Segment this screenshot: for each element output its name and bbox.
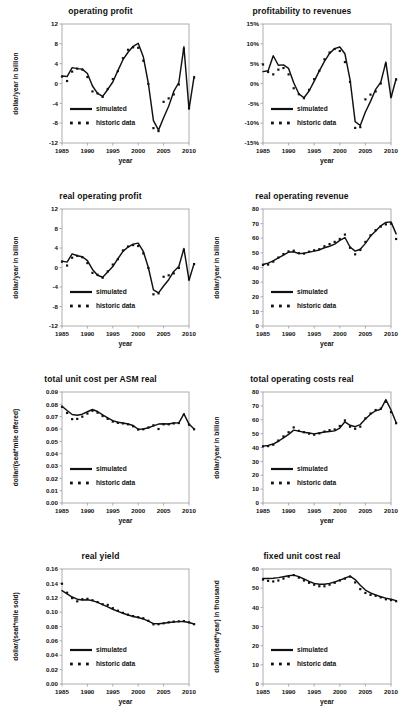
series-point-historic — [334, 428, 336, 430]
series-point-historic — [102, 277, 104, 279]
series-point-historic — [328, 51, 330, 53]
series-point-historic — [61, 406, 63, 408]
y-axis-tick-label: 5% — [250, 60, 259, 67]
series-point-historic — [86, 598, 88, 600]
series-point-historic — [112, 421, 114, 423]
y-axis-tick-label: 8 — [55, 40, 59, 47]
series-point-historic — [349, 81, 351, 83]
x-axis-label: year — [62, 517, 189, 524]
series-point-historic — [308, 582, 310, 584]
series-point-historic — [76, 600, 78, 602]
y-axis-tick-label: 0 — [256, 499, 260, 506]
series-point-historic — [188, 278, 190, 280]
series-point-historic — [323, 430, 325, 432]
x-axis-tick-label: 1990 — [282, 330, 296, 337]
y-axis-tick-label: -4 — [52, 100, 58, 107]
series-point-historic — [369, 94, 371, 96]
figure-grid: operating profit12840-4-8-12198519901995… — [0, 0, 403, 726]
x-axis-tick-label: 2010 — [182, 688, 196, 695]
y-axis-tick-label: 0.00 — [46, 499, 59, 506]
series-point-historic — [137, 429, 139, 431]
series-point-historic — [96, 412, 98, 414]
series-point-historic — [127, 614, 129, 616]
legend-label-historic: historic data — [96, 660, 136, 667]
series-point-historic — [132, 244, 134, 246]
y-axis-tick-label: 0.09 — [46, 388, 59, 395]
series-point-historic — [375, 229, 377, 231]
series-point-historic — [293, 250, 295, 252]
legend-swatch-historic — [86, 122, 89, 125]
series-point-historic — [117, 422, 119, 424]
legend-label-simulated: simulated — [297, 646, 328, 653]
y-axis-tick-label: 12 — [51, 205, 58, 212]
y-axis-label: dollar/year in billion — [213, 392, 220, 503]
legend-swatch-historic — [287, 482, 290, 485]
series-point-historic — [81, 416, 83, 418]
series-point-historic — [262, 445, 264, 447]
series-point-historic — [354, 581, 356, 583]
series-point-historic — [142, 60, 144, 62]
y-axis-tick-label: 40 — [252, 604, 259, 611]
y-axis-tick-label: 12 — [51, 20, 58, 27]
series-point-historic — [282, 577, 284, 579]
series-point-historic — [380, 82, 382, 84]
series-point-historic — [334, 48, 336, 50]
x-axis-tick-label: 1990 — [282, 147, 296, 154]
series-point-historic — [369, 412, 371, 414]
y-axis-tick-label: 0.07 — [46, 413, 59, 420]
series-point-historic — [318, 585, 320, 587]
y-axis-tick-label: 70 — [252, 402, 259, 409]
series-point-historic — [293, 574, 295, 576]
series-point-historic — [298, 252, 300, 254]
series-line-simulated — [62, 43, 194, 130]
series-point-historic — [152, 623, 154, 625]
series-point-historic — [178, 422, 180, 424]
legend-swatch-historic — [287, 663, 290, 666]
series-point-historic — [339, 425, 341, 427]
y-axis-tick-label: 10 — [252, 661, 259, 668]
legend-label-simulated: simulated — [297, 105, 328, 112]
series-point-historic — [267, 445, 269, 447]
series-point-historic — [132, 46, 134, 48]
series-point-historic — [102, 415, 104, 417]
series-point-historic — [112, 607, 114, 609]
series-point-historic — [107, 88, 109, 90]
series-point-historic — [61, 583, 63, 585]
y-axis-tick-label: 30 — [252, 623, 259, 630]
legend-label-simulated: simulated — [96, 465, 127, 472]
y-axis-label: dollar/year in billion — [12, 209, 19, 326]
series-line-simulated — [263, 400, 396, 446]
y-axis-tick-label: 0.08 — [46, 401, 59, 408]
series-point-historic — [61, 75, 63, 77]
series-point-historic — [262, 264, 264, 266]
series-point-historic — [173, 272, 175, 274]
series-point-historic — [178, 267, 180, 269]
series-point-historic — [390, 599, 392, 601]
x-axis-tick-label: 2005 — [157, 688, 171, 695]
series-point-historic — [132, 615, 134, 617]
series-point-historic — [178, 83, 180, 85]
series-point-historic — [168, 621, 170, 623]
x-axis-tick-label: 1990 — [282, 507, 296, 514]
series-point-historic — [380, 408, 382, 410]
series-point-historic — [122, 57, 124, 59]
series-point-historic — [303, 97, 305, 99]
series-point-historic — [395, 238, 397, 240]
series-point-historic — [277, 256, 279, 258]
y-axis-tick-label: 0 — [256, 322, 260, 329]
x-axis-label: year — [263, 340, 391, 347]
series-point-historic — [288, 73, 290, 75]
legend-swatch-historic — [271, 663, 274, 666]
series-point-historic — [349, 247, 351, 249]
y-axis-label: dollar/(seat*mile offered) — [12, 392, 19, 503]
series-point-historic — [157, 428, 159, 430]
x-axis-tick-label: 2005 — [359, 507, 373, 514]
series-point-historic — [344, 61, 346, 63]
series-point-historic — [152, 127, 154, 129]
series-point-historic — [107, 418, 109, 420]
y-axis-tick-label: 20 — [252, 471, 259, 478]
y-axis-tick-label: 0.06 — [46, 425, 59, 432]
y-axis-tick-label: 0 — [256, 680, 260, 687]
series-point-historic — [147, 426, 149, 428]
y-axis-tick-label: -12 — [49, 139, 59, 146]
